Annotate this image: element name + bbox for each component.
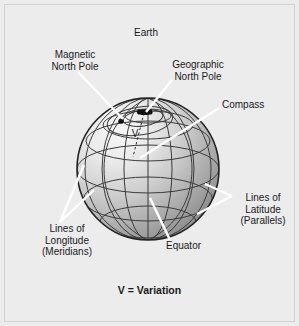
diagram-figure: V Earth Magnetic North Pole Geographic N… [0, 0, 299, 326]
geographic-north-pole-marker [137, 109, 153, 115]
magnetic-north-pole-marker [118, 118, 123, 123]
label-earth-text: Earth [116, 27, 176, 39]
variation-symbol-on-globe: V [132, 128, 139, 139]
label-lines-of-longitude-line2: Longitude [22, 235, 112, 247]
legend-variation-text: V = Variation [0, 285, 299, 297]
label-magnetic-north-pole-line1: Magnetic [31, 49, 119, 61]
label-equator-text: Equator [166, 240, 226, 252]
label-earth: Earth [116, 27, 176, 39]
label-equator: Equator [166, 240, 226, 252]
label-geographic-north-pole-line1: Geographic [155, 59, 241, 71]
label-compass-text: Compass [222, 99, 292, 111]
label-lines-of-latitude-line1: Lines of [230, 192, 296, 204]
label-lines-of-longitude-line1: Lines of [22, 223, 112, 235]
label-lines-of-longitude-line3: (Meridians) [22, 246, 112, 258]
label-lines-of-latitude-line2: Latitude [230, 204, 296, 216]
label-compass: Compass [222, 99, 292, 111]
label-geographic-north-pole: Geographic North Pole [155, 59, 241, 82]
label-lines-of-latitude-line3: (Parallels) [230, 215, 296, 227]
leader-line-magnetic-north-pole [78, 72, 123, 119]
label-magnetic-north-pole: Magnetic North Pole [31, 49, 119, 72]
label-magnetic-north-pole-line2: North Pole [31, 61, 119, 73]
legend-variation: V = Variation [0, 285, 299, 297]
label-lines-of-longitude: Lines of Longitude (Meridians) [22, 223, 112, 258]
label-lines-of-latitude: Lines of Latitude (Parallels) [230, 192, 296, 227]
leader-line-longitude-b [60, 165, 84, 222]
label-geographic-north-pole-line2: North Pole [155, 71, 241, 83]
